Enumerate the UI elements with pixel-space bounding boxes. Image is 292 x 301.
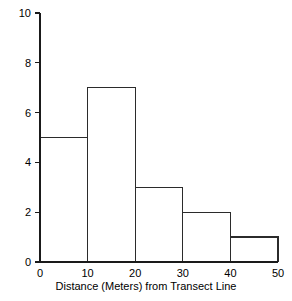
histogram-bar [88, 88, 136, 262]
x-tick-label: 20 [129, 267, 141, 279]
x-tick-label: 50 [272, 267, 284, 279]
y-tick-label: 4 [25, 156, 31, 168]
x-tick-label: 0 [37, 267, 43, 279]
histogram-bar [40, 138, 88, 263]
y-tick-label: 6 [25, 107, 31, 119]
x-axis-title: Distance (Meters) from Transect Line [0, 280, 292, 292]
y-axis-ticks: 0246810 [19, 7, 40, 268]
y-tick-label: 2 [25, 206, 31, 218]
y-tick-label: 0 [25, 256, 31, 268]
histogram-bar [183, 212, 231, 262]
histogram-chart: Number of Detections 0246810 01020304050… [0, 0, 292, 301]
histogram-bar [230, 237, 278, 262]
x-tick-label: 40 [224, 267, 236, 279]
plot-area: 0246810 01020304050 [0, 0, 292, 301]
y-tick-label: 10 [19, 7, 31, 19]
y-tick-label: 8 [25, 57, 31, 69]
histogram-bar [135, 187, 183, 262]
x-tick-label: 30 [177, 267, 189, 279]
x-axis-ticks: 01020304050 [37, 257, 284, 279]
x-tick-label: 10 [81, 267, 93, 279]
histogram-bars [40, 88, 278, 262]
